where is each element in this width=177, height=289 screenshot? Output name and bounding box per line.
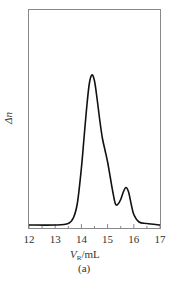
x-tick-label: 15 <box>102 233 114 245</box>
x-axis-label-unit: /mL <box>81 248 99 260</box>
x-axis-tick-labels: 121314151617 <box>24 233 167 245</box>
plot-frame <box>29 10 161 229</box>
x-tick-label: 14 <box>76 233 88 245</box>
data-series-line <box>29 75 160 225</box>
y-axis-label: Δn <box>2 112 14 124</box>
x-axis-label: VR/mL <box>70 248 100 262</box>
x-tick-label: 17 <box>155 233 167 245</box>
x-axis-label-main: V <box>70 248 77 260</box>
figure-caption: (a) <box>78 262 90 274</box>
x-tick-label: 12 <box>24 233 35 245</box>
chart-canvas: 121314151617 <box>0 0 177 289</box>
x-tick-label: 16 <box>128 233 140 245</box>
x-tick-label: 13 <box>50 233 62 245</box>
